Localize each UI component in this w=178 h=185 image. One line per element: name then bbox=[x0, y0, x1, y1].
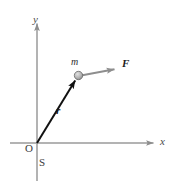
force-vector-label: F bbox=[122, 58, 129, 69]
diagram-canvas bbox=[0, 0, 178, 185]
y-axis-label: y bbox=[33, 14, 38, 25]
position-vector-label: r bbox=[56, 105, 60, 116]
x-axis-label: x bbox=[160, 136, 165, 147]
reference-frame-label: S bbox=[39, 157, 45, 168]
origin-label: O bbox=[25, 143, 33, 154]
physics-vector-diagram: y x F r m O S bbox=[0, 0, 178, 185]
force-vector-arrow bbox=[81, 69, 115, 75]
mass-label: m bbox=[71, 57, 78, 67]
particle-mass-point bbox=[74, 71, 82, 79]
